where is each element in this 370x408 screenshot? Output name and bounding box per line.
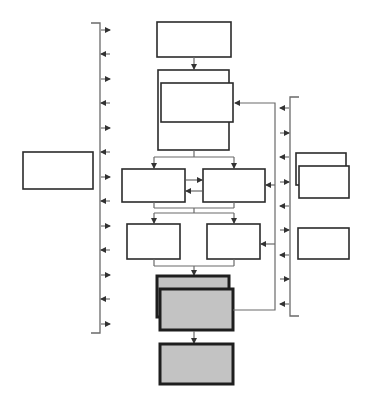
right-bracket-arrows [280,108,289,304]
top-box [157,22,231,57]
connector-stack-to-row1 [154,150,234,168]
gray-stack-front [160,289,233,330]
left-bracket-arrows [101,30,110,324]
stack-box-front [161,83,233,122]
right-bracket [280,97,299,316]
left-box [23,152,93,189]
row1-left-box [122,169,185,202]
gray-stacked-box [157,276,233,330]
gray-bottom-box [160,344,233,384]
feedback-loop [233,103,275,310]
row1-right-box [203,169,265,202]
right-stack-front [299,166,349,198]
left-bracket [91,23,110,333]
connector-row1-to-row2 [154,202,234,223]
stacked-box [158,70,233,150]
right-single-box [298,228,349,259]
row2-right-box [207,224,260,259]
right-stacked-box [296,153,349,198]
flow-diagram [0,0,370,408]
connector-row2-to-gray [154,259,234,275]
row2-left-box [127,224,180,259]
